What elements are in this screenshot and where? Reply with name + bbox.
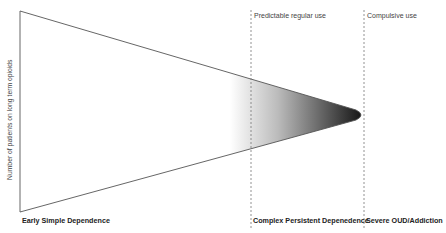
bottom-label-complex: Complex Persistent Depenedence <box>253 216 369 225</box>
top-label-predictable: Predictable regular use <box>254 12 326 19</box>
top-label-compulsive: Compulsive use <box>367 12 417 19</box>
funnel-diagram <box>0 0 446 233</box>
bottom-label-severe: Severe OUD/Addiction <box>366 216 443 225</box>
bottom-label-early: Early Simple Dependence <box>22 216 110 225</box>
y-axis-label: Number of patients on long term opioids <box>6 59 13 180</box>
funnel-shape <box>20 11 361 212</box>
